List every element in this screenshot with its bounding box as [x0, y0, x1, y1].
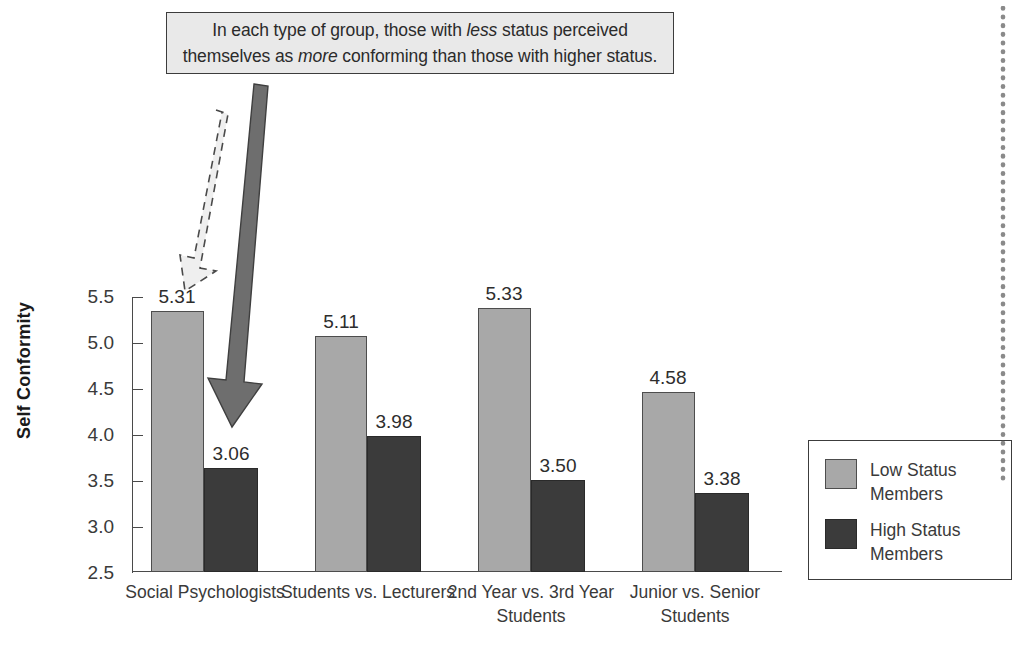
- x-category-label-0: Social Psychologists: [110, 581, 300, 605]
- bar-low-status-0: [151, 311, 204, 572]
- y-tick-label-2.5: 2.5: [66, 562, 114, 584]
- chart-legend: Low Status Members High Status Members: [808, 440, 1012, 580]
- bar-value-low-0: 5.31: [137, 286, 217, 308]
- x-category-label-3: Junior vs. Senior Students: [600, 581, 790, 628]
- y-tick-label-3.0: 3.0: [66, 516, 114, 538]
- y-tick-label-5.0: 5.0: [66, 332, 114, 354]
- bar-value-high-2: 3.50: [518, 455, 598, 477]
- bar-high-status-3: [695, 493, 749, 572]
- bar-low-status-1: [315, 336, 367, 572]
- x-category-label-2: 2nd Year vs. 3rd Year Students: [436, 581, 626, 628]
- y-tick-label-4.0: 4.0: [66, 424, 114, 446]
- y-tick-mark-4.5: [132, 389, 143, 390]
- y-tick-mark-5.0: [132, 343, 143, 344]
- legend-item-high-status: High Status Members: [825, 519, 960, 566]
- page-edge-dotted-rule: [999, 6, 1007, 482]
- y-tick-mark-3.5: [132, 481, 143, 482]
- legend-label-low-status: Low Status Members: [870, 459, 957, 506]
- bar-high-status-2: [531, 480, 585, 572]
- bar-value-low-1: 5.11: [301, 311, 381, 333]
- bar-value-low-2: 5.33: [464, 283, 544, 305]
- y-tick-mark-4.0: [132, 435, 143, 436]
- bar-value-high-0: 3.06: [191, 443, 271, 465]
- bar-low-status-2: [478, 308, 531, 572]
- y-tick-label-4.5: 4.5: [66, 378, 114, 400]
- legend-swatch-low-status-icon: [825, 459, 857, 489]
- y-axis-title: Self Conformity: [14, 271, 35, 471]
- y-tick-label-3.5: 3.5: [66, 470, 114, 492]
- bar-high-status-1: [367, 436, 421, 572]
- legend-label-high-status: High Status Members: [870, 519, 960, 566]
- bar-value-low-3: 4.58: [628, 367, 708, 389]
- legend-swatch-high-status-icon: [825, 519, 857, 549]
- x-category-label-1: Students vs. Lecturers: [273, 581, 463, 605]
- y-tick-mark-3.0: [132, 527, 143, 528]
- y-tick-mark-2.5: [132, 571, 143, 572]
- legend-item-low-status: Low Status Members: [825, 459, 957, 506]
- y-tick-label-5.5: 5.5: [66, 286, 114, 308]
- bar-high-status-0: [204, 468, 258, 572]
- bar-value-high-3: 3.38: [682, 468, 762, 490]
- bar-value-high-1: 3.98: [354, 411, 434, 433]
